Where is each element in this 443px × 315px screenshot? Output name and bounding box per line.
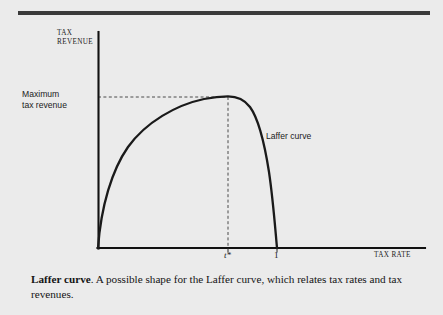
laffer-curve-annotation: Laffer curve [266,131,311,142]
figure-caption-title: Laffer curve [31,273,91,285]
x-tick-label-one: 1 [274,250,279,260]
figure-caption: Laffer curve. A possible shape for the L… [31,272,421,302]
x-tick-label-tstar: t* [224,250,231,260]
x-axis-title: TAX RATE [374,251,411,260]
y-axis-title: TAX REVENUE [57,29,93,47]
max-revenue-annotation: Maximum tax revenue [22,89,67,110]
figure-root: TAX REVENUE TAX RATE Maximum tax revenue… [0,0,443,315]
plot-area: TAX REVENUE TAX RATE Maximum tax revenue… [0,0,443,262]
laffer-curve-path [98,96,277,248]
